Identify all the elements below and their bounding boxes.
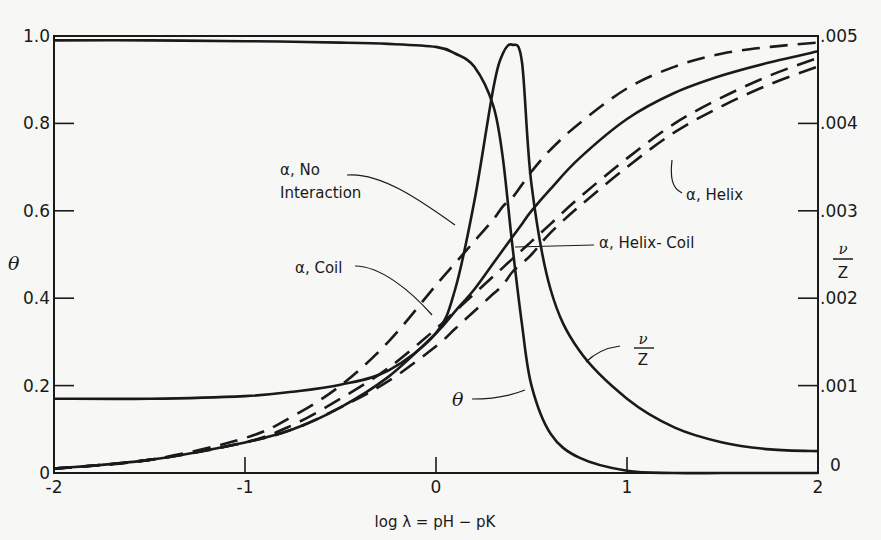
- curve-helix-coil: [54, 51, 818, 468]
- x-axis: -2-1012: [46, 457, 824, 497]
- annotation-coil: α, Coil: [295, 259, 432, 315]
- y-right-tick-label: .001: [820, 376, 858, 396]
- annotation-text: α, Helix: [686, 186, 743, 204]
- annotation-text: α, Helix- Coil: [599, 234, 694, 252]
- annotation-text: ν: [638, 330, 647, 348]
- y-axis-title-right-numerator: ν: [838, 240, 847, 258]
- curve-helix: [54, 67, 818, 469]
- x-tick-label: 2: [813, 477, 824, 497]
- plot-frame: [54, 36, 818, 473]
- curve-z: [54, 44, 818, 451]
- annotation-text: α, Coil: [295, 259, 342, 277]
- x-tick-label: -1: [237, 477, 254, 497]
- y-right-tick-label: .002: [820, 288, 858, 308]
- y-tick-label: 0: [39, 463, 50, 483]
- curve-coil: [54, 58, 818, 469]
- annotation-no-interaction: α, No Interaction: [280, 161, 455, 225]
- y-axis-title-right: ν Z: [833, 240, 853, 282]
- y-tick-label: 1.0: [23, 26, 50, 46]
- y-right-tick-label: 0: [830, 455, 841, 475]
- annotation-nu-over-z: ν Z: [586, 330, 654, 369]
- y-axis-title-right-denominator: Z: [838, 264, 848, 282]
- y-tick-label: 0.6: [23, 201, 50, 221]
- y-tick-label: 0.2: [23, 376, 50, 396]
- x-tick-label: 1: [622, 477, 633, 497]
- x-tick-label: 0: [431, 477, 442, 497]
- y-tick-label: 0.8: [23, 113, 50, 133]
- leader-line: [355, 266, 432, 315]
- annotation-text: Interaction: [280, 184, 361, 202]
- y-axis-title-left: θ: [8, 252, 20, 274]
- y-axis-left: 00.20.40.60.81.0: [23, 26, 74, 483]
- x-axis-title: log λ = pH − pK: [375, 513, 497, 531]
- annotation-text: θ: [452, 388, 464, 410]
- leader-line: [347, 175, 455, 225]
- leader-line: [472, 390, 525, 399]
- curve-: [54, 40, 818, 473]
- y-right-tick-label: .003: [820, 201, 858, 221]
- chart-canvas: -2-1012 00.20.40.60.81.0 0.001.002.003.0…: [0, 0, 881, 540]
- leader-line: [586, 346, 620, 362]
- annotation-theta: θ: [452, 388, 525, 410]
- y-right-tick-label: .005: [820, 26, 858, 46]
- y-axis-right: 0.001.002.003.004.005: [798, 26, 858, 475]
- y-tick-label: 0.4: [23, 288, 50, 308]
- annotation-helix: α, Helix: [671, 160, 743, 204]
- y-right-tick-label: .004: [820, 113, 858, 133]
- curves: [54, 40, 818, 473]
- annotation-text: Z: [638, 351, 648, 369]
- annotation-text: α, No: [280, 161, 320, 179]
- leader-line: [671, 160, 682, 193]
